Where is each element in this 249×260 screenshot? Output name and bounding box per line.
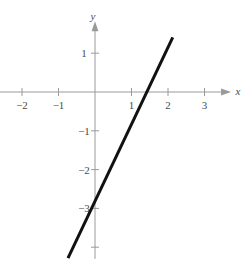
plotted-line: [68, 37, 173, 258]
x-axis-label: x: [235, 85, 241, 97]
x-tick-label: 3: [202, 99, 208, 111]
x-tick-label: 1: [129, 99, 135, 111]
y-tick-label: −1: [78, 125, 90, 137]
y-axis-label: y: [90, 10, 96, 22]
ticks-layer: [22, 53, 205, 247]
x-axis-arrow-icon: [221, 89, 231, 96]
graph-figure: −2−11231−1−2−3 x y: [0, 0, 249, 260]
y-tick-label: −2: [78, 164, 90, 176]
series-layer: [68, 37, 173, 258]
x-tick-label: 2: [165, 99, 171, 111]
x-tick-label: −1: [53, 99, 65, 111]
y-tick-label: 1: [81, 47, 87, 59]
y-axis-arrow-icon: [92, 21, 99, 31]
axes-layer: [0, 21, 231, 259]
x-tick-label: −2: [16, 99, 28, 111]
tick-labels-layer: −2−11231−1−2−3: [16, 47, 208, 214]
cartesian-plot: −2−11231−1−2−3 x y: [0, 0, 249, 260]
